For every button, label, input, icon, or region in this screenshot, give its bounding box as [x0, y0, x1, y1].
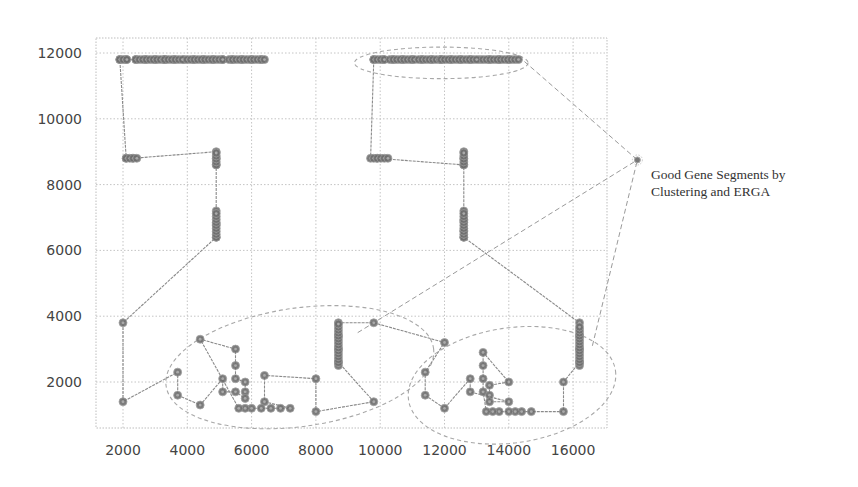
x-tick-label: 8000: [298, 442, 334, 458]
data-point-core: [517, 58, 520, 61]
data-point-core: [263, 374, 266, 377]
data-point-core: [488, 384, 491, 387]
data-point-core: [315, 377, 318, 380]
data-point-core: [337, 323, 340, 326]
data-point-core: [507, 400, 510, 403]
data-point-core: [176, 394, 179, 397]
data-point-core: [462, 212, 465, 215]
data-point-core: [289, 407, 292, 410]
x-tick-label: 12000: [422, 442, 467, 458]
data-point-core: [485, 410, 488, 413]
annotation-label: Good Gene Segments by Clustering and ERG…: [651, 166, 786, 200]
data-point-core: [221, 377, 224, 380]
data-point-core: [424, 394, 427, 397]
y-tick-label: 4000: [46, 308, 82, 324]
data-point-core: [250, 407, 253, 410]
data-point-core: [372, 400, 375, 403]
data-point-core: [122, 321, 125, 324]
data-point-core: [443, 407, 446, 410]
cluster-ellipse: [158, 290, 442, 445]
annotation-pointer-line: [358, 160, 638, 333]
y-tick-label: 8000: [46, 177, 82, 193]
data-point-core: [244, 407, 247, 410]
x-tick-label: 4000: [169, 442, 205, 458]
data-point-core: [237, 407, 240, 410]
data-point-core: [469, 390, 472, 393]
x-axis-tick-labels: 200040006000800010000120001400016000: [105, 442, 595, 458]
data-point-core: [215, 152, 218, 155]
data-point-core: [383, 58, 386, 61]
data-point-core: [125, 58, 128, 61]
data-point-core: [488, 394, 491, 397]
annotation-pointer-line: [592, 160, 637, 346]
data-point-core: [244, 390, 247, 393]
annotation-target-marker: [632, 155, 642, 165]
path-polyline: [120, 60, 580, 412]
x-tick-label: 2000: [105, 442, 141, 458]
data-point-core: [315, 410, 318, 413]
data-point-core: [491, 410, 494, 413]
y-tick-label: 2000: [46, 374, 82, 390]
data-path-line: [120, 60, 580, 412]
annotation-shapes: [158, 47, 638, 457]
data-point-core: [372, 321, 375, 324]
y-axis-tick-labels: 20004000600080001000012000: [37, 45, 82, 390]
grid-lines: [96, 38, 607, 428]
data-point-core: [498, 410, 501, 413]
data-point-core: [234, 364, 237, 367]
data-point-core: [176, 371, 179, 374]
cluster-ellipse: [401, 314, 624, 457]
data-point-core: [507, 381, 510, 384]
data-point-core: [482, 390, 485, 393]
target-point: [634, 157, 640, 163]
y-tick-label: 10000: [37, 111, 82, 127]
data-point-core: [387, 157, 390, 160]
data-point-core: [530, 410, 533, 413]
data-point-core: [269, 407, 272, 410]
data-markers: [116, 56, 584, 416]
data-point-core: [469, 377, 472, 380]
plot-frame: [96, 38, 607, 428]
data-point-core: [462, 152, 465, 155]
data-point-core: [482, 377, 485, 380]
data-point-core: [234, 377, 237, 380]
annotation-label-line-1: Good Gene Segments by: [651, 166, 786, 183]
data-point-core: [135, 157, 138, 160]
data-point-core: [244, 397, 247, 400]
x-tick-label: 6000: [234, 442, 270, 458]
chart-canvas: 200040006000800010000120001400016000 200…: [0, 0, 858, 487]
data-point-core: [234, 348, 237, 351]
x-tick-label: 10000: [358, 442, 403, 458]
data-point-core: [488, 400, 491, 403]
data-point-core: [578, 326, 581, 329]
data-point-core: [260, 407, 263, 410]
data-point-core: [122, 400, 125, 403]
data-point-core: [199, 338, 202, 341]
data-point-core: [443, 341, 446, 344]
data-point-core: [221, 390, 224, 393]
data-point-core: [279, 407, 282, 410]
data-point-core: [514, 410, 517, 413]
data-point-core: [482, 351, 485, 354]
annotation-pointer-line: [518, 56, 637, 160]
data-point-core: [475, 58, 478, 61]
data-point-core: [263, 400, 266, 403]
data-point-core: [520, 410, 523, 413]
x-tick-label: 16000: [551, 442, 596, 458]
annotation-label-line-2: Clustering and ERGA: [651, 183, 786, 200]
data-point-core: [424, 371, 427, 374]
data-point-core: [482, 364, 485, 367]
data-point-core: [215, 212, 218, 215]
data-point-core: [562, 381, 565, 384]
data-point-core: [244, 381, 247, 384]
data-point-core: [507, 410, 510, 413]
y-tick-label: 6000: [46, 242, 82, 258]
data-point-core: [221, 58, 224, 61]
y-tick-label: 12000: [37, 45, 82, 61]
data-point-core: [234, 390, 237, 393]
data-point-core: [199, 404, 202, 407]
data-point-core: [562, 410, 565, 413]
data-point-core: [263, 58, 266, 61]
